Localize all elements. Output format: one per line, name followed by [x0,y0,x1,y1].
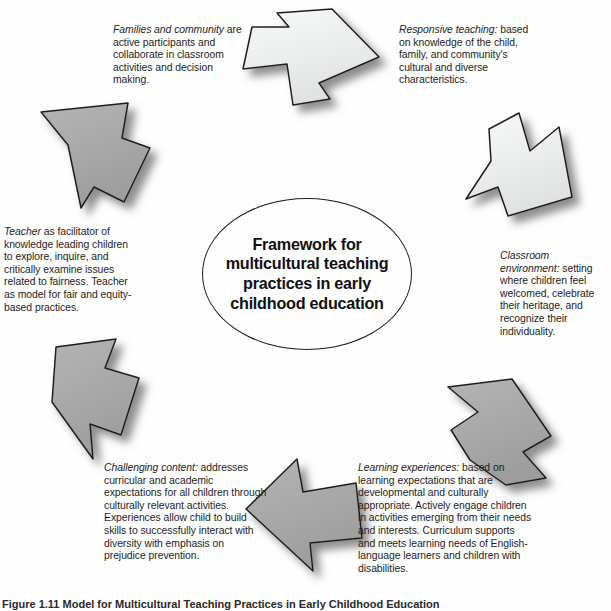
lead-learning: Learning experiences: [358,462,459,473]
text-block-classroom-environment: Classroom environment: setting where chi… [500,250,604,338]
text-block-learning-experiences: Learning experiences: based on learning … [358,462,534,575]
lead-classroom: Classroom environment: [500,250,559,274]
arrow-upper-right-down-pointing [466,113,572,216]
text-block-teacher-as-facilitator: Teacher as facilitator of knowledge lead… [4,226,138,314]
lead-challenging: Challenging content: [104,462,198,473]
center-ellipse: Framework for multicultural teaching pra… [202,198,412,350]
body-challenging: addresses curricular and academic expect… [104,462,266,561]
lead-teacher: Teacher [4,226,41,237]
figure-caption: Figure 1.11 Model for Multicultural Teac… [2,598,602,611]
multicultural-framework-figure: Framework for multicultural teaching pra… [0,0,611,611]
body-teacher: as facilitator of knowledge leading chil… [4,226,131,313]
body-learning: based on learning expectations that are … [358,462,531,574]
lead-responsive: Responsive teaching: [399,24,497,35]
page-title: Framework for multicultural teaching pra… [218,235,396,313]
lead-families: Families and community [113,24,224,35]
text-block-responsive-teaching: Responsive teaching: based on knowledge … [399,24,539,87]
arrow-upper-left-up-right-pointing [41,103,150,208]
arrow-top-right-pointing [243,9,379,105]
arrow-lower-left-up-left-pointing [52,339,139,459]
text-block-families-and-community: Families and community are active partic… [113,24,249,87]
text-block-challenging-content: Challenging content: addresses curricula… [104,462,268,563]
